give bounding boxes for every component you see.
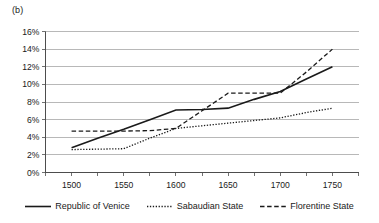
- series-line-republic-of-venice: [72, 67, 333, 148]
- legend-swatch-solid-line-icon: [25, 202, 51, 211]
- legend-label: Republic of Venice: [55, 201, 130, 212]
- y-tick-label: 2%: [27, 150, 40, 160]
- y-tick-label: 6%: [27, 115, 40, 125]
- legend-item[interactable]: Sabaudian State: [147, 201, 244, 212]
- legend-label: Sabaudian State: [177, 201, 244, 212]
- x-axis-tick-labels: 150015501600165017001750: [62, 180, 342, 190]
- chart-figure: (b) 0%2%4%6%8%10%12%14%16% 1500155016001…: [0, 0, 379, 223]
- legend-item[interactable]: Republic of Venice: [25, 201, 130, 212]
- x-tick-label: 1500: [62, 180, 81, 190]
- x-tick-label: 1600: [166, 180, 185, 190]
- x-tick-label: 1550: [114, 180, 133, 190]
- legend-label: Florentine State: [290, 201, 354, 212]
- gridlines: [46, 32, 359, 173]
- y-tick-label: 0%: [27, 168, 40, 178]
- x-axis-tick-marks: [46, 173, 359, 177]
- x-tick-label: 1650: [219, 180, 238, 190]
- legend-swatch-dotted-line-icon: [147, 202, 173, 211]
- x-tick-label: 1750: [323, 180, 342, 190]
- legend-swatch-dashed-line-icon: [260, 202, 286, 211]
- y-tick-label: 8%: [27, 97, 40, 107]
- legend-item[interactable]: Florentine State: [260, 201, 354, 212]
- y-tick-label: 12%: [22, 62, 40, 72]
- chart-legend: Republic of VeniceSabaudian StateFlorent…: [0, 196, 379, 216]
- series-line-sabaudian-state: [72, 108, 333, 149]
- data-series: [72, 49, 333, 149]
- y-tick-label: 4%: [27, 132, 40, 142]
- y-tick-label: 14%: [22, 44, 40, 54]
- line-chart-plot: 0%2%4%6%8%10%12%14%16% 15001550160016501…: [0, 0, 379, 223]
- y-tick-label: 10%: [22, 79, 40, 89]
- x-tick-label: 1700: [271, 180, 290, 190]
- y-axis-tick-labels: 0%2%4%6%8%10%12%14%16%: [22, 27, 40, 178]
- y-tick-label: 16%: [22, 27, 40, 37]
- y-axis-tick-marks: [42, 32, 46, 173]
- series-line-florentine-state: [72, 49, 333, 131]
